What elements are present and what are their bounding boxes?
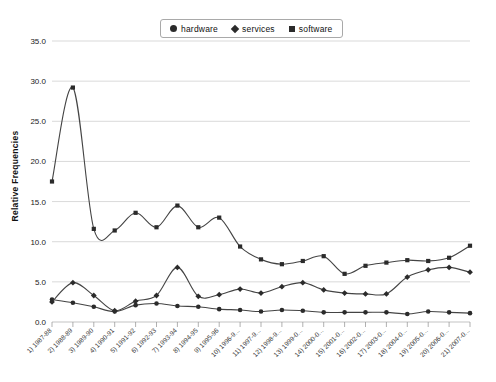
y-tick-label: 25.0 [30, 117, 46, 126]
data-point[interactable] [70, 280, 76, 286]
data-point[interactable] [301, 259, 305, 263]
data-point[interactable] [447, 256, 451, 260]
chart-container: hardware services software Relative Freq… [0, 0, 496, 382]
data-point[interactable] [384, 291, 390, 297]
data-point[interactable] [363, 310, 368, 315]
data-point[interactable] [258, 290, 264, 296]
data-point[interactable] [280, 308, 285, 313]
data-point[interactable] [92, 304, 97, 309]
data-point[interactable] [384, 260, 388, 264]
data-point[interactable] [405, 258, 409, 262]
data-point[interactable] [71, 300, 76, 305]
chart-plot-area: 0.05.010.015.020.025.030.035.0 1) 1987-8… [0, 0, 496, 382]
data-point[interactable] [301, 308, 306, 313]
series-hardware [50, 297, 473, 316]
data-point[interactable] [467, 269, 473, 275]
data-point[interactable] [425, 267, 431, 273]
data-point[interactable] [321, 310, 326, 315]
data-point[interactable] [343, 272, 347, 276]
data-point[interactable] [175, 203, 179, 207]
y-tick-label: 5.0 [35, 278, 47, 287]
data-point[interactable] [154, 225, 158, 229]
data-point[interactable] [447, 310, 452, 315]
data-point[interactable] [426, 259, 430, 263]
y-tick-label: 15.0 [30, 198, 46, 207]
data-point[interactable] [175, 304, 180, 309]
series-software [50, 85, 472, 275]
data-point[interactable] [322, 254, 326, 258]
series-line-services [52, 267, 470, 311]
x-axis-ticks [52, 322, 470, 327]
data-point[interactable] [113, 228, 117, 232]
y-axis-tick-labels: 0.05.010.015.020.025.030.035.0 [30, 37, 46, 327]
data-point[interactable] [405, 312, 410, 317]
data-point[interactable] [237, 286, 243, 292]
data-point[interactable] [468, 311, 473, 316]
data-point[interactable] [238, 308, 243, 313]
data-point[interactable] [71, 85, 75, 89]
data-point[interactable] [321, 287, 327, 293]
data-point[interactable] [342, 290, 348, 296]
x-axis-tick-labels: 1) 1987-882) 1988-893) 1989-904) 1990-91… [25, 327, 471, 359]
series-line-software [52, 87, 470, 274]
data-point[interactable] [112, 308, 118, 314]
y-tick-label: 20.0 [30, 157, 46, 166]
data-point[interactable] [217, 307, 222, 312]
data-point[interactable] [259, 309, 264, 314]
data-point[interactable] [446, 265, 452, 271]
data-point[interactable] [196, 225, 200, 229]
data-point[interactable] [363, 264, 367, 268]
data-point[interactable] [238, 244, 242, 248]
data-point[interactable] [280, 262, 284, 266]
data-point[interactable] [175, 265, 181, 271]
data-point[interactable] [279, 284, 285, 290]
data-point[interactable] [134, 211, 138, 215]
data-point[interactable] [154, 301, 159, 306]
data-point[interactable] [426, 309, 431, 314]
data-point[interactable] [92, 227, 96, 231]
y-tick-label: 30.0 [30, 77, 46, 86]
data-point[interactable] [300, 280, 306, 286]
data-point[interactable] [217, 216, 221, 220]
y-tick-label: 35.0 [30, 37, 46, 46]
series-services [49, 265, 473, 314]
data-point[interactable] [342, 310, 347, 315]
data-point[interactable] [133, 298, 139, 304]
data-point[interactable] [468, 244, 472, 248]
y-tick-label: 0.0 [35, 318, 47, 327]
data-point[interactable] [259, 257, 263, 261]
data-point[interactable] [196, 304, 201, 309]
data-point[interactable] [384, 310, 389, 315]
data-point[interactable] [216, 292, 222, 298]
y-tick-label: 10.0 [30, 238, 46, 247]
data-point[interactable] [363, 291, 369, 297]
data-point[interactable] [50, 179, 54, 183]
